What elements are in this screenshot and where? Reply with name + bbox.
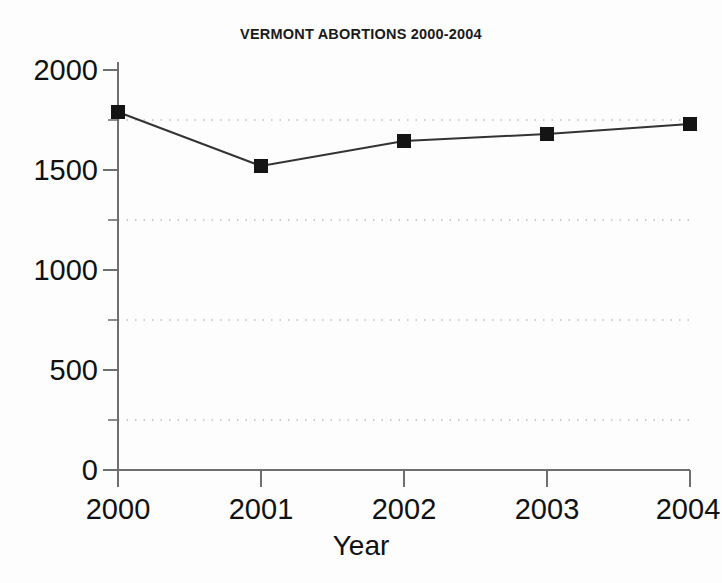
- ytick-label-2000: 2000: [10, 56, 98, 85]
- x-axis: [118, 470, 690, 487]
- data-markers: [111, 105, 697, 173]
- xtick-label-2003: 2003: [515, 495, 580, 524]
- xtick-label-2001: 2001: [229, 495, 294, 524]
- xtick-label-2002: 2002: [372, 495, 437, 524]
- ytick-label-1000: 1000: [10, 256, 98, 285]
- data-point-2002: [397, 134, 411, 148]
- data-point-2004: [683, 117, 697, 131]
- ytick-label-0: 0: [10, 456, 98, 485]
- x-axis-title: Year: [0, 530, 722, 562]
- xtick-label-2004: 2004: [656, 495, 721, 524]
- data-point-2003: [540, 127, 554, 141]
- ytick-label-1500: 1500: [10, 156, 98, 185]
- y-axis: [103, 62, 118, 470]
- data-point-2000: [111, 105, 125, 119]
- gridlines: [118, 120, 690, 420]
- ytick-label-500: 500: [10, 356, 98, 385]
- xtick-label-2000: 2000: [86, 495, 151, 524]
- chart-container: VERMONT ABORTIONS 2000-2004: [0, 0, 722, 583]
- data-point-2001: [254, 159, 268, 173]
